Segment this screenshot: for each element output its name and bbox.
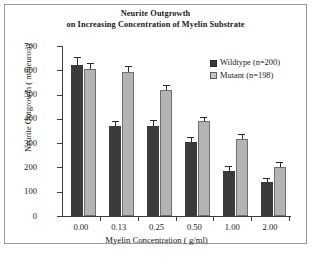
y-axis-label: Neurite Outgrowth ( m/neuron) [23,23,33,173]
x-axis-tick-label: 1.00 [212,223,252,232]
chart-legend: Wildtype (n=200) Mutant (n=198) [210,57,280,82]
error-bar-cap [74,57,81,58]
series-mutant-column [198,46,210,216]
bar-wildtype[interactable] [261,182,273,216]
legend-swatch-mutant-icon [210,72,217,79]
bar-group [71,46,96,216]
x-axis-tick [176,217,177,221]
bar-group [147,46,172,216]
error-bar [191,138,192,142]
series-wildtype-column [147,46,159,216]
error-bar [77,58,78,65]
x-axis-tick-label: 0.13 [99,223,139,232]
y-axis-tick [57,119,62,120]
bar-wildtype[interactable] [185,142,197,216]
series-mutant-column [122,46,134,216]
y-axis-tick [57,95,62,96]
legend-label-wildtype: Wildtype (n=200) [220,57,280,70]
chart-figure: Neurite Outgrowth on Increasing Concentr… [4,4,307,244]
error-bar-cap [112,121,119,122]
error-bar [128,67,129,72]
error-bar [115,122,116,126]
y-axis-tick [57,143,62,144]
series-mutant-column [84,46,96,216]
x-axis-tick [213,217,214,221]
error-bar [242,135,243,139]
x-axis-tick [100,217,101,221]
bar-group [109,46,134,216]
x-axis-tick-label: 0.50 [174,223,214,232]
error-bar [280,163,281,167]
error-bar-cap [187,137,194,138]
bar-wildtype[interactable] [71,65,83,216]
x-axis-tick-label: 0.25 [137,223,177,232]
bar-mutant[interactable] [160,90,172,216]
legend-label-mutant: Mutant (n=198) [220,70,273,83]
error-bar [166,86,167,91]
x-axis-tick-label: 2.00 [250,223,290,232]
bar-group [185,46,210,216]
error-bar [90,64,91,69]
y-axis-tick [57,46,62,47]
chart-title-line-2: on Increasing Concentration of Myelin Su… [5,20,306,31]
bar-mutant[interactable] [122,72,134,217]
y-axis-tick [57,192,62,193]
series-mutant-column [160,46,172,216]
legend-item-mutant: Mutant (n=198) [210,70,280,83]
x-axis-line [62,216,291,217]
y-axis-tick [57,216,62,217]
error-bar [229,167,230,171]
chart-title-line-1: Neurite Outgrowth [5,9,306,20]
error-bar [204,118,205,121]
bar-mutant[interactable] [198,121,210,216]
error-bar-cap [200,117,207,118]
series-wildtype-column [109,46,121,216]
error-bar-cap [87,63,94,64]
chart-title: Neurite Outgrowth on Increasing Concentr… [5,9,306,30]
y-axis-tick-label: 100 [0,187,37,196]
x-axis-tick [251,217,252,221]
legend-swatch-wildtype-icon [210,60,217,67]
bar-wildtype[interactable] [223,171,235,216]
error-bar [267,179,268,182]
error-bar-cap [276,162,283,163]
series-wildtype-column [185,46,197,216]
error-bar-cap [163,85,170,86]
bar-wildtype[interactable] [147,126,159,216]
y-axis-tick-label: 0 [0,212,37,221]
series-wildtype-column [71,46,83,216]
bar-wildtype[interactable] [109,126,121,216]
y-axis-tick [57,70,62,71]
y-axis-tick [57,167,62,168]
legend-item-wildtype: Wildtype (n=200) [210,57,280,70]
x-axis-label: Myelin Concentration ( g/ml) [5,235,308,245]
error-bar-cap [225,166,232,167]
x-axis-tick [138,217,139,221]
bar-mutant[interactable] [84,69,96,216]
error-bar-cap [150,120,157,121]
x-axis-tick-label: 0.00 [61,223,101,232]
bar-mutant[interactable] [274,167,286,216]
error-bar-cap [263,178,270,179]
error-bar [153,121,154,126]
error-bar-cap [238,134,245,135]
error-bar-cap [125,66,132,67]
x-axis-tick [289,217,290,221]
bar-mutant[interactable] [236,139,248,216]
